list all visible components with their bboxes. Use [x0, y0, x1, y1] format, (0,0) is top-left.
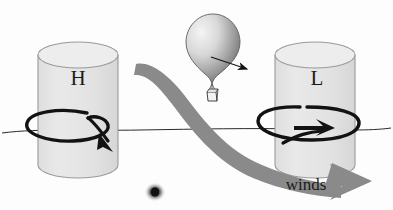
cylinder-top-high	[38, 42, 118, 68]
balloon-payload-box	[207, 89, 218, 101]
cell-label-low: L	[311, 66, 324, 90]
diagram-canvas: H L winds	[0, 0, 393, 210]
winds-label: winds	[286, 175, 327, 194]
ink-smudge-artifact	[144, 182, 166, 202]
cell-label-high: H	[70, 66, 85, 90]
pressure-cells-diagram: H L winds	[0, 0, 393, 210]
balloon-envelope	[186, 14, 240, 84]
cylinder-top-low	[275, 42, 355, 68]
weather-balloon	[186, 14, 247, 101]
